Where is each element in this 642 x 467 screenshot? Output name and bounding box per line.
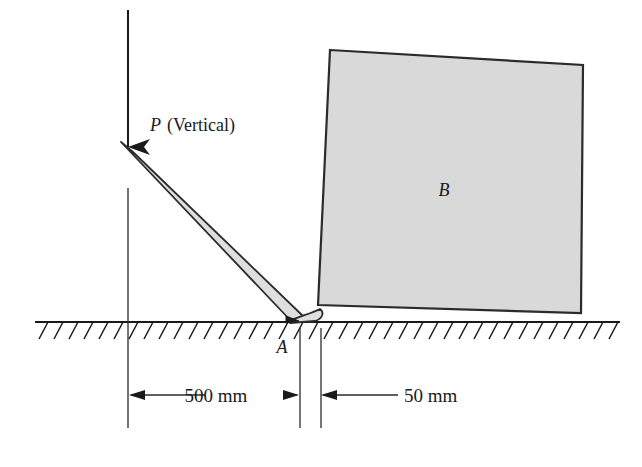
force-symbol: P xyxy=(149,115,161,135)
block-b-body xyxy=(318,50,583,313)
force-qualifier: (Vertical) xyxy=(167,115,235,136)
point-a-label: A xyxy=(276,337,289,357)
block-b-label: B xyxy=(439,180,450,200)
dim-50-label: 50 mm xyxy=(404,385,458,406)
figure-container: B xyxy=(0,0,642,467)
dim-500-label: 500 mm xyxy=(185,385,248,406)
block-b: B xyxy=(318,50,583,313)
crowbar-block-diagram: B xyxy=(0,0,642,467)
